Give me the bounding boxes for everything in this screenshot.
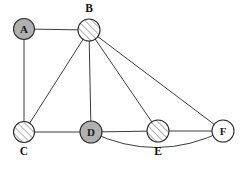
node-c[interactable] (14, 122, 35, 143)
node-label-c: C (20, 145, 28, 157)
graph-canvas: ABCDEF (0, 0, 243, 180)
node-label-b: B (85, 2, 93, 14)
graph-diagram: ABCDEF (0, 0, 243, 180)
edge-b-e (89, 30, 158, 131)
edge-b-d (89, 30, 91, 132)
node-label-f: F (220, 125, 227, 137)
node-label-a: A (20, 23, 28, 35)
node-label-e: E (154, 145, 162, 157)
node-e[interactable] (147, 120, 169, 142)
edge-b-f (89, 30, 223, 131)
edge-b-c (24, 30, 89, 132)
edges-layer (24, 29, 223, 148)
node-b[interactable] (78, 19, 100, 41)
node-label-d: D (87, 126, 95, 138)
